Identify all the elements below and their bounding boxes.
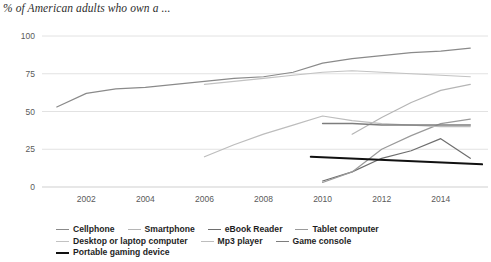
- legend-item[interactable]: Cellphone: [56, 224, 115, 236]
- chart-container: % of American adults who own a ... 02550…: [0, 0, 491, 262]
- x-tick-label: 2002: [77, 194, 96, 204]
- series-line: [57, 48, 471, 107]
- legend-item[interactable]: Desktop or laptop computer: [56, 236, 188, 248]
- series-line: [311, 157, 482, 165]
- x-tick-label: 2014: [431, 194, 450, 204]
- legend-line-swatch: [56, 229, 69, 230]
- legend-row: CellphoneSmartphoneeBook ReaderTablet co…: [56, 224, 491, 236]
- legend-item[interactable]: eBook Reader: [208, 224, 283, 236]
- y-axis-tick-labels: 0255075100: [21, 31, 35, 192]
- legend-label: Game console: [293, 236, 352, 248]
- legend-line-swatch: [128, 229, 141, 230]
- legend-line-swatch: [276, 241, 289, 242]
- x-tick-label: 2010: [313, 194, 332, 204]
- legend-line-swatch: [201, 241, 214, 242]
- legend-label: Tablet computer: [312, 224, 378, 236]
- y-tick-label: 0: [30, 182, 35, 192]
- legend-label: Portable gaming device: [73, 247, 169, 259]
- x-axis-tick-labels: 2002200420062008201020122014: [77, 194, 451, 204]
- legend-line-swatch: [295, 229, 308, 230]
- legend-item[interactable]: Game console: [276, 236, 352, 248]
- legend-line-swatch: [208, 229, 221, 230]
- chart-legend: CellphoneSmartphoneeBook ReaderTablet co…: [56, 224, 491, 259]
- legend-item[interactable]: Smartphone: [128, 224, 195, 236]
- x-tick-label: 2012: [372, 194, 391, 204]
- legend-row: Portable gaming device: [56, 247, 491, 259]
- y-tick-label: 25: [26, 144, 36, 154]
- legend-item[interactable]: Tablet computer: [295, 224, 378, 236]
- y-tick-label: 100: [21, 31, 35, 41]
- legend-label: eBook Reader: [225, 224, 283, 236]
- x-tick-label: 2008: [254, 194, 273, 204]
- x-tick-label: 2006: [195, 194, 214, 204]
- gridlines: [42, 36, 488, 187]
- legend-line-swatch: [56, 252, 69, 254]
- legend-item[interactable]: Portable gaming device: [56, 247, 169, 259]
- legend-item[interactable]: Mp3 player: [201, 236, 263, 248]
- line-chart-plot: 0255075100 2002200420062008201020122014: [0, 0, 491, 215]
- data-series-group: [57, 48, 482, 182]
- legend-label: Desktop or laptop computer: [73, 236, 188, 248]
- series-line: [323, 119, 471, 182]
- series-line: [204, 116, 470, 157]
- legend-label: Smartphone: [145, 224, 195, 236]
- legend-line-swatch: [56, 241, 69, 242]
- legend-row: Desktop or laptop computerMp3 playerGame…: [56, 236, 491, 248]
- x-tick-label: 2004: [136, 194, 155, 204]
- legend-label: Cellphone: [73, 224, 115, 236]
- legend-label: Mp3 player: [218, 236, 263, 248]
- y-tick-label: 75: [26, 69, 36, 79]
- y-tick-label: 50: [26, 107, 36, 117]
